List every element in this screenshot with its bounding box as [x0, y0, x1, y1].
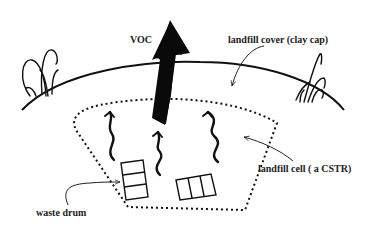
drum-leader-arrow [66, 182, 120, 205]
cell-leader-arrow [244, 137, 293, 161]
wavy-arrow-icon [153, 132, 162, 175]
grass-tuft-right-icon [296, 54, 325, 102]
waste-drum-icon [176, 174, 216, 200]
grass-tuft-left-icon [23, 50, 58, 96]
voc-label: VOC [130, 35, 152, 45]
drum-label: waste drum [36, 208, 86, 218]
wavy-arrow-icon [203, 112, 218, 162]
waste-drum-icon [121, 160, 148, 200]
wavy-arrow-icon [105, 112, 114, 160]
voc-arrow-icon [152, 20, 190, 125]
cover-arc [22, 62, 344, 110]
landfill-diagram: VOC landfill cover (clay cap) landfill c… [0, 0, 373, 231]
cover-label: landfill cover (clay cap) [228, 35, 328, 45]
cell-label: landfill cell ( a CSTR) [258, 164, 351, 174]
